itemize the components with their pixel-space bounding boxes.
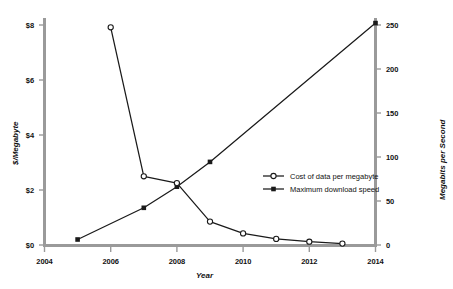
x-axis-tick-label-2004: 2004: [25, 257, 65, 266]
left-axis-tick-label-8: $8: [12, 21, 34, 30]
x-axis-tick-label-2006: 2006: [91, 257, 131, 266]
x-axis-title: Year: [196, 271, 213, 280]
legend-marker-cost-per-megabyte: [263, 173, 284, 178]
x-axis-tick-label-2012: 2012: [289, 257, 329, 266]
legend-label-download-speed: Maximum download speed: [290, 185, 379, 194]
right-axis-tick-label-50: 50: [386, 197, 394, 206]
right-axis-tick-label-100: 100: [386, 153, 398, 162]
x-axis-tick-label-2008: 2008: [157, 257, 197, 266]
x-axis-tick-label-2014: 2014: [356, 257, 396, 266]
chart-container: $8 $6 $4 $2 $0 250 200 150 100 50 0 2004…: [0, 0, 453, 289]
right-axis-title: Megabits per Second: [438, 120, 447, 200]
legend-marker-download-speed: [263, 187, 284, 192]
right-axis-tick-label-150: 150: [386, 109, 398, 118]
legend-label-cost-per-megabyte: Cost of data per megabyte: [290, 172, 378, 181]
series-line-download-speed: [78, 23, 376, 239]
left-axis-tick-label-2: $2: [12, 186, 34, 195]
series-line-cost-per-megabyte: [111, 27, 343, 243]
left-axis-title: $/Megabyte: [11, 121, 20, 165]
series-markers-cost-per-megabyte: [108, 25, 345, 247]
series-markers-download-speed: [75, 21, 378, 242]
right-axis-tick-label-250: 250: [386, 21, 398, 30]
right-axis-tick-label-0: 0: [386, 241, 390, 250]
left-axis-tick-label-6: $6: [12, 76, 34, 85]
left-axis-tick-label-0: $0: [12, 241, 34, 250]
x-axis-tick-label-2010: 2010: [223, 257, 263, 266]
right-axis-tick-label-200: 200: [386, 65, 398, 74]
